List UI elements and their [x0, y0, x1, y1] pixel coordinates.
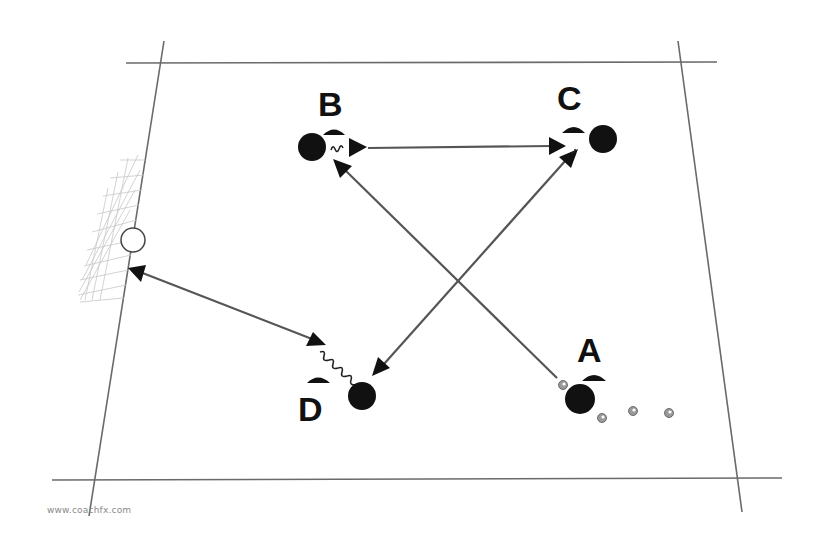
passes — [128, 137, 578, 378]
player-c-label: C — [557, 79, 582, 117]
cone-b — [323, 130, 345, 136]
arrowhead-at-goal — [128, 265, 146, 282]
dribble-c — [570, 149, 575, 153]
pass-line-d-to-goal — [140, 272, 312, 339]
player-c-marker — [589, 125, 617, 153]
pass-line-c-to-d — [384, 160, 566, 364]
ball-icon — [598, 414, 607, 423]
player-d-label: D — [298, 390, 323, 428]
field-line-right — [678, 41, 742, 512]
player-b-label: B — [318, 85, 343, 123]
player-c[interactable]: C — [557, 79, 617, 153]
cone-c — [562, 127, 585, 133]
arrowhead-at-c — [549, 137, 566, 155]
field-line-top — [126, 62, 717, 63]
ball-icon — [665, 409, 674, 418]
goal-marker — [121, 228, 145, 252]
cone-d — [307, 378, 330, 384]
pass-line-b-to-c — [368, 146, 552, 148]
field-line-left — [89, 41, 164, 516]
cone-a — [582, 375, 606, 381]
ball-icon — [559, 381, 568, 390]
drill-diagram: B C D A — [0, 0, 820, 540]
field-boundary — [52, 41, 782, 516]
arrowhead-b-right — [349, 138, 367, 157]
field-line-bottom — [52, 478, 782, 480]
dribble-b — [331, 146, 343, 152]
player-b-marker — [298, 133, 326, 161]
player-a-label: A — [577, 331, 602, 369]
player-d-marker — [348, 382, 376, 410]
player-d[interactable]: D — [298, 378, 376, 429]
player-a[interactable]: A — [565, 331, 606, 414]
pass-line-a-to-b — [345, 170, 557, 378]
watermark: www.coachfx.com — [47, 505, 131, 515]
ball-icon — [629, 407, 638, 416]
player-a-marker — [565, 384, 595, 414]
